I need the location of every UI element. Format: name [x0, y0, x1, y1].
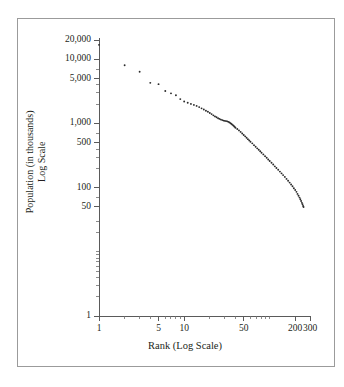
y-tick-label: 20,000: [65, 35, 91, 45]
y-tick-label: 1,000: [70, 118, 91, 128]
y-tick-label: 50: [82, 202, 92, 212]
y-axis-title-line2: Log Scale: [36, 142, 47, 182]
figure-container: 1501005001,0005,00010,00020,000151050200…: [0, 0, 344, 387]
y-axis-title: Population (in thousands) Log Scale: [24, 82, 48, 242]
x-tick-label: 1: [79, 324, 119, 334]
y-tick-label: 500: [77, 138, 91, 148]
x-axis-title: Rank (Log Scale): [60, 340, 310, 351]
x-tick-label: 300: [290, 324, 330, 334]
x-tick-label: 10: [164, 324, 204, 334]
y-tick-label: 5,000: [70, 74, 91, 84]
y-tick-label: 1: [86, 311, 91, 321]
y-tick-label: 10,000: [65, 54, 91, 64]
x-tick-label: 50: [224, 324, 264, 334]
y-tick-label: 100: [77, 183, 91, 193]
chart-frame: [17, 18, 335, 367]
y-axis-title-line1: Population (in thousands): [24, 110, 35, 213]
